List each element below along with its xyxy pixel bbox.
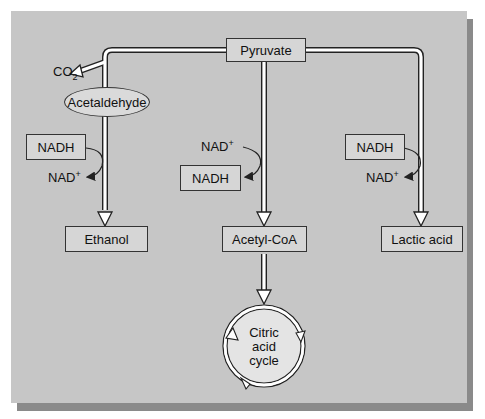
- ethanol-label: Ethanol: [84, 232, 128, 247]
- right-nadh-box: NADH: [345, 134, 405, 160]
- ethanol-node: Ethanol: [65, 226, 148, 252]
- acetyl-coa-label: Acetyl-CoA: [232, 232, 297, 247]
- middle-nad-label: NAD+: [201, 138, 234, 154]
- acetaldehyde-node: Acetaldehyde: [64, 87, 150, 117]
- citric-acid-cycle-label: Citric acid cycle: [239, 326, 289, 368]
- left-nadh-box: NADH: [26, 134, 86, 160]
- lactic-acid-label: Lactic acid: [391, 232, 452, 247]
- acetyl-coa-node: Acetyl-CoA: [222, 226, 307, 252]
- left-nad-label: NAD+: [48, 169, 81, 185]
- right-nad-label: NAD+: [366, 169, 399, 185]
- co2-label: CO2: [53, 64, 78, 82]
- lactic-acid-node: Lactic acid: [381, 226, 463, 252]
- pyruvate-node: Pyruvate: [226, 38, 306, 62]
- middle-nadh-box: NADH: [180, 165, 241, 191]
- pyruvate-label: Pyruvate: [240, 43, 291, 58]
- acetaldehyde-label: Acetaldehyde: [68, 95, 147, 110]
